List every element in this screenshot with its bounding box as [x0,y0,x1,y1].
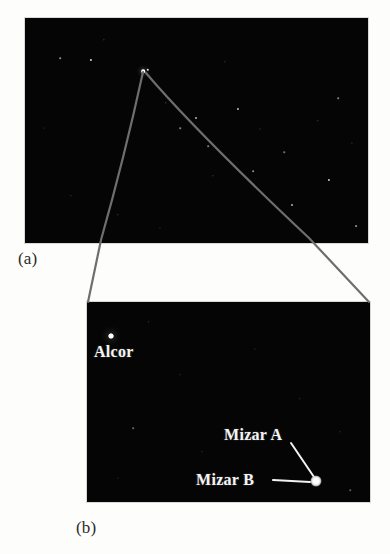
star-point [132,427,134,429]
star-point [254,348,255,349]
star-point [212,175,213,176]
star-point [147,69,149,71]
panel-caption-a: (a) [18,249,37,269]
star-point [351,142,352,143]
star-label-mizar-a: Mizar A [224,426,282,444]
star-point [207,145,209,147]
star-point [252,170,254,172]
star-point [339,431,340,432]
star-point [148,321,149,322]
figure-root: Alcor Mizar A Mizar B (a) (b) [0,0,390,554]
star-point [317,120,318,121]
star-point [224,61,225,62]
star-point [179,127,181,129]
star-point [117,477,118,478]
star-point [237,108,239,110]
star-label-alcor: Alcor [94,343,134,361]
star-point [355,225,357,227]
star-point [201,451,202,452]
star-point [291,204,293,206]
star-point [179,374,180,375]
star-point [195,117,197,119]
star-point [70,195,71,196]
panel-caption-b: (b) [76,518,96,538]
star-point [117,214,118,215]
star-point [349,489,351,491]
star-point [141,69,145,73]
alcor-star-marker [109,334,114,339]
star-point [299,398,300,399]
star-point [43,127,44,128]
star-point [328,179,330,181]
panel-a-wide-field-photo [25,18,368,243]
star-point [103,39,104,40]
star-point [337,97,339,99]
star-point [59,57,61,59]
starfield-panel-a [25,18,368,243]
mizar-star-marker [311,476,322,487]
star-point [283,151,285,153]
star-point [90,59,92,61]
star-point [259,128,260,129]
star-label-mizar-b: Mizar B [196,471,254,489]
star-point [159,227,160,228]
star-point [165,102,166,103]
